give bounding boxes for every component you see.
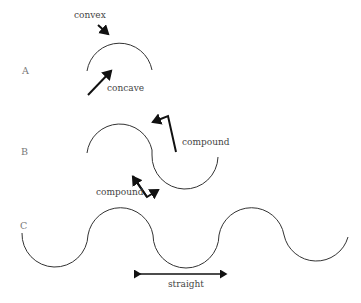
compound-upper-label: compound <box>182 137 230 147</box>
compound-curve <box>87 124 218 189</box>
concave-label: concave <box>107 83 144 93</box>
compound-lower-label: compound <box>96 187 144 197</box>
curve-types-diagram: A convex concave B compound compound C s… <box>0 0 361 303</box>
wave-curve <box>22 208 348 268</box>
row-label-b: B <box>21 146 28 157</box>
straight-label: straight <box>168 279 204 289</box>
row-label-a: A <box>21 65 29 76</box>
convex-arc <box>87 43 152 71</box>
convex-arrow-icon <box>98 25 108 34</box>
convex-label: convex <box>74 10 106 20</box>
row-label-c: C <box>20 220 27 231</box>
compound-upper-arrow-icon <box>153 116 176 152</box>
